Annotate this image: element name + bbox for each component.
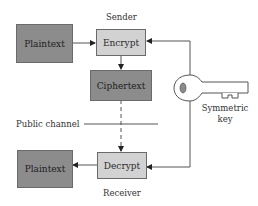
ciphertext-box: Ciphertext xyxy=(90,70,152,101)
plaintext-output-label: Plaintext xyxy=(25,164,66,174)
plaintext-input-box: Plaintext xyxy=(16,24,73,63)
key-icon xyxy=(174,75,248,101)
sender-label: Sender xyxy=(106,12,137,22)
encrypt-box: Encrypt xyxy=(96,29,146,56)
encrypt-label: Encrypt xyxy=(103,38,139,48)
decrypt-label: Decrypt xyxy=(104,161,140,171)
public-channel-label: Public channel xyxy=(16,119,80,129)
decrypt-box: Decrypt xyxy=(97,152,147,179)
symmetric-key-label-line2: key xyxy=(200,114,250,124)
plaintext-output-box: Plaintext xyxy=(17,150,73,188)
symmetric-key-label-line1: Symmetric xyxy=(200,103,250,113)
receiver-label: Receiver xyxy=(103,188,141,198)
ciphertext-label: Ciphertext xyxy=(97,81,146,91)
plaintext-input-label: Plaintext xyxy=(24,39,65,49)
